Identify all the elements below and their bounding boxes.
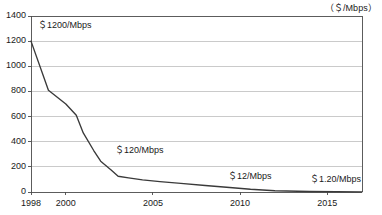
- y-axis-tick-label: 1000: [0, 60, 26, 70]
- y-axis-tick-label: 400: [0, 136, 26, 146]
- x-axis-tick-label: 2010: [220, 198, 260, 208]
- price-annotation: ＄120/Mbps: [115, 143, 164, 156]
- x-axis-tick-label: 2005: [133, 198, 173, 208]
- x-axis-tick-label: 2000: [46, 198, 86, 208]
- price-annotation: ＄12/Mbps: [228, 169, 272, 182]
- price-annotation: ＄1.20/Mbps: [310, 172, 361, 185]
- axis-frame: [31, 16, 362, 192]
- gridlines: [31, 16, 362, 192]
- price-annotation: ＄1200/Mbps: [38, 18, 92, 31]
- y-axis-tick-label: 1200: [0, 35, 26, 45]
- bandwidth-price-chart: （＄/Mbps） 1400120010008006004002000 19982…: [0, 0, 382, 215]
- y-axis-tick-label: 1400: [0, 10, 26, 20]
- x-axis-tick-label: 2015: [307, 198, 347, 208]
- y-axis-tick-label: 200: [0, 161, 26, 171]
- y-axis-tick-label: 0: [0, 186, 26, 196]
- y-axis-tick-label: 600: [0, 111, 26, 121]
- y-axis-tick-label: 800: [0, 85, 26, 95]
